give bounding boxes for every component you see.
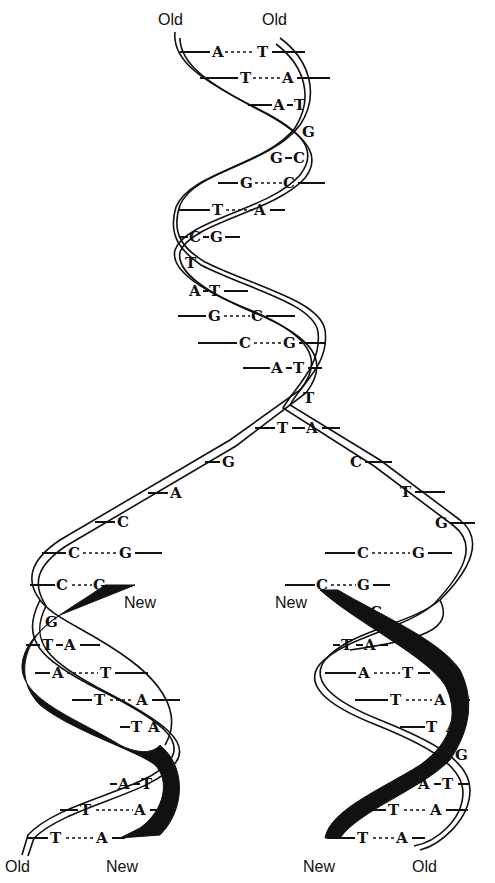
nucleotide-base: T <box>94 691 106 709</box>
nucleotide-base: T <box>257 43 269 61</box>
nucleotide-base: A <box>63 636 76 654</box>
nucleotide-base: T <box>212 201 224 219</box>
nucleotide-base: T <box>402 664 414 682</box>
nucleotide-base: T <box>341 636 353 654</box>
label-bottom-left-new: New <box>106 858 138 875</box>
nucleotide-base: G <box>435 514 448 532</box>
nucleotide-base: T <box>426 718 438 736</box>
label-top-right-old: Old <box>262 11 287 28</box>
nucleotide-base: T <box>185 254 197 272</box>
nucleotide-base: A <box>395 829 408 847</box>
nucleotide-base: T <box>100 664 112 682</box>
nucleotide-base: C <box>239 334 251 352</box>
nucleotide-base: G <box>283 334 296 352</box>
label-bottom-right-old: Old <box>412 858 437 875</box>
nucleotide-base: A <box>445 718 458 736</box>
nucleotide-base: C <box>370 603 382 621</box>
nucleotide-base: G <box>119 544 132 562</box>
nucleotide-base: T <box>50 829 62 847</box>
right-fork-unpaired: C T G <box>350 453 475 532</box>
nucleotide-base: C <box>189 228 201 246</box>
nucleotide-base: G <box>208 307 221 325</box>
nucleotide-base: A <box>147 718 160 736</box>
nucleotide-base: T <box>390 691 402 709</box>
nucleotide-base: T <box>277 419 289 437</box>
nucleotide-base: A <box>270 359 283 377</box>
left-fork-unpaired: G A C <box>95 453 235 531</box>
nucleotide-base: T <box>442 775 454 793</box>
nucleotide-base: G <box>93 576 106 594</box>
nucleotide-base: C <box>68 544 80 562</box>
nucleotide-base: A <box>133 801 146 819</box>
nucleotide-base: C <box>117 513 129 531</box>
nucleotide-base: C <box>152 746 164 764</box>
nucleotide-base: G <box>210 228 223 246</box>
nucleotide-base: T <box>357 829 369 847</box>
nucleotide-base: G <box>240 174 253 192</box>
nucleotide-base: C <box>251 307 263 325</box>
nucleotide-base: C <box>357 544 369 562</box>
nucleotide-base: T <box>400 483 412 501</box>
label-bottom-left-old: Old <box>5 858 30 875</box>
nucleotide-base: A <box>253 201 266 219</box>
nucleotide-base: A <box>363 636 376 654</box>
nucleotide-base: A <box>95 829 108 847</box>
nucleotide-base: A <box>211 43 224 61</box>
nucleotide-base: A <box>272 96 285 114</box>
parent-base-pairs: A T T A A T G G C G C T A C G T A <box>178 43 340 437</box>
nucleotide-base: A <box>417 775 430 793</box>
nucleotide-base: G <box>357 576 370 594</box>
nucleotide-base: T <box>131 718 143 736</box>
label-right-fork-new: New <box>275 594 307 611</box>
label-top-left-old: Old <box>158 11 183 28</box>
nucleotide-base: G <box>45 613 58 631</box>
nucleotide-base: T <box>303 389 315 407</box>
nucleotide-base: A <box>135 691 148 709</box>
nucleotide-base: C <box>350 453 362 471</box>
nucleotide-base: G <box>270 149 283 167</box>
nucleotide-base: T <box>294 96 306 114</box>
nucleotide-base: A <box>357 664 370 682</box>
label-bottom-right-new: New <box>303 858 335 875</box>
nucleotide-base: A <box>429 801 442 819</box>
nucleotide-base: A <box>188 282 201 300</box>
nucleotide-base: G <box>455 746 468 764</box>
nucleotide-base: T <box>141 775 153 793</box>
nucleotide-base: T <box>293 359 305 377</box>
nucleotide-base: G <box>222 453 235 471</box>
nucleotide-base: A <box>433 691 446 709</box>
nucleotide-base: A <box>51 664 64 682</box>
nucleotide-base: T <box>80 801 92 819</box>
nucleotide-base: G <box>302 123 315 141</box>
nucleotide-base: T <box>209 282 221 300</box>
nucleotide-base: C <box>283 174 295 192</box>
nucleotide-base: C <box>316 576 328 594</box>
nucleotide-base: T <box>240 69 252 87</box>
nucleotide-base: C <box>293 149 305 167</box>
nucleotide-base: T <box>42 636 54 654</box>
nucleotide-base: T <box>388 801 400 819</box>
nucleotide-base: C <box>56 576 68 594</box>
nucleotide-base: A <box>305 419 318 437</box>
nucleotide-base: G <box>412 544 425 562</box>
nucleotide-base: A <box>117 775 130 793</box>
nucleotide-base: A <box>169 484 182 502</box>
dna-replication-diagram: Old Old A T T A A T G G C G C T <box>0 0 495 883</box>
label-left-fork-new: New <box>124 594 156 611</box>
nucleotide-base: A <box>281 69 294 87</box>
